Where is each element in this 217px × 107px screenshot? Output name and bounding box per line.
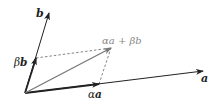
label-alpha-a: αa — [88, 88, 102, 100]
vector-sum-arrow — [25, 48, 111, 93]
dashed-guide-from-beta-b — [36, 48, 111, 58]
label-beta-symbol: β — [13, 56, 20, 68]
vector-diagram: b a βb αa αa + βb — [0, 0, 217, 107]
label-beta-b: βb — [13, 56, 27, 68]
label-a: a — [201, 72, 208, 85]
label-b: b — [36, 7, 44, 20]
label-alpha-symbol: α — [88, 88, 95, 100]
label-sum: αa + βb — [102, 35, 142, 46]
label-alpha-a-vector: a — [95, 88, 102, 100]
label-beta-b-vector: b — [20, 56, 27, 68]
